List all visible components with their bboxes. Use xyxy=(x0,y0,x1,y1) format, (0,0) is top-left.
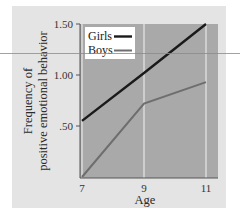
legend-label-girls: Girls xyxy=(88,29,112,43)
y-axis-label: Frequency of positive emotional behavior xyxy=(21,30,50,170)
x-tick-label: 11 xyxy=(201,182,212,194)
legend-label-boys: Boys xyxy=(88,43,113,57)
y-tick-label: .50 xyxy=(59,120,73,132)
y-axis-ticks: .501.001.50 xyxy=(54,18,80,132)
svg-text:positive emotional behavior: positive emotional behavior xyxy=(36,30,50,170)
x-axis-label: Age xyxy=(135,193,156,207)
y-tick-label: 1.50 xyxy=(54,18,74,30)
svg-text:Frequency of: Frequency of xyxy=(21,67,35,134)
y-tick-label: 1.00 xyxy=(54,69,74,81)
x-tick-label: 7 xyxy=(79,182,85,194)
line-chart: .501.001.50 7911 Girls Boys Age Frequenc… xyxy=(0,0,240,224)
legend: Girls Boys xyxy=(85,27,135,59)
